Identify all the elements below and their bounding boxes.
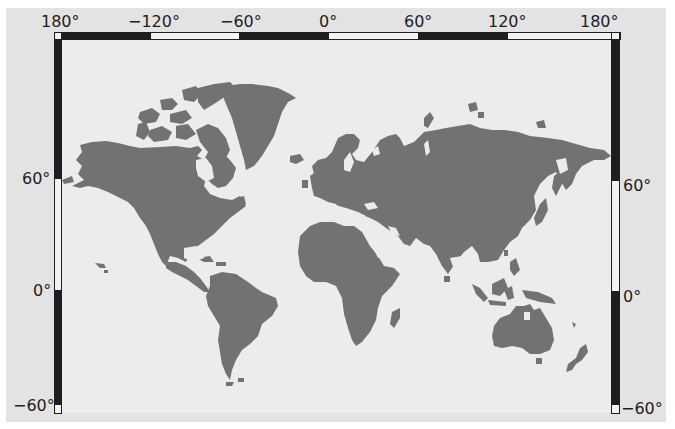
scale-segment-light xyxy=(508,33,611,39)
latitude-scale-right xyxy=(611,32,620,414)
scale-segment-light xyxy=(612,405,619,413)
corner-box xyxy=(55,33,61,39)
longitude-label-60w: −60° xyxy=(220,14,262,30)
scale-segment-light xyxy=(55,405,61,413)
longitude-label-60e: 60° xyxy=(404,14,432,30)
latitude-label-60s-right: −60° xyxy=(621,401,663,417)
latitude-label-0-right: 0° xyxy=(623,289,641,305)
ireland xyxy=(302,180,308,188)
latitude-scale-left xyxy=(54,32,62,414)
sri-lanka xyxy=(444,276,450,282)
latitude-label-60s-left: −60° xyxy=(13,398,55,414)
scale-segment-light xyxy=(329,33,418,39)
latitude-label-60n-right: 60° xyxy=(623,178,651,194)
page: 180° −120° −60° 0° 60° 120° 180° 60° 0° … xyxy=(0,0,675,429)
tasmania xyxy=(536,358,542,364)
taiwan xyxy=(504,250,508,256)
scale-segment-light xyxy=(612,181,619,291)
longitude-label-120w: −120° xyxy=(128,14,180,30)
longitude-label-180w: 180° xyxy=(41,14,80,30)
scale-segment-light xyxy=(151,33,239,39)
longitude-label-0: 0° xyxy=(319,14,337,30)
world-map xyxy=(0,0,675,429)
longitude-scale-top xyxy=(54,32,621,40)
latitude-label-60n-left: 60° xyxy=(22,171,50,187)
falkland-islands xyxy=(238,378,244,382)
latitude-label-0-left: 0° xyxy=(33,283,51,299)
corner-box xyxy=(612,33,619,39)
longitude-label-180e: 180° xyxy=(580,14,619,30)
longitude-label-120e: 120° xyxy=(488,14,527,30)
gulf-of-carpentaria xyxy=(524,312,530,320)
scale-segment-light xyxy=(55,179,61,290)
